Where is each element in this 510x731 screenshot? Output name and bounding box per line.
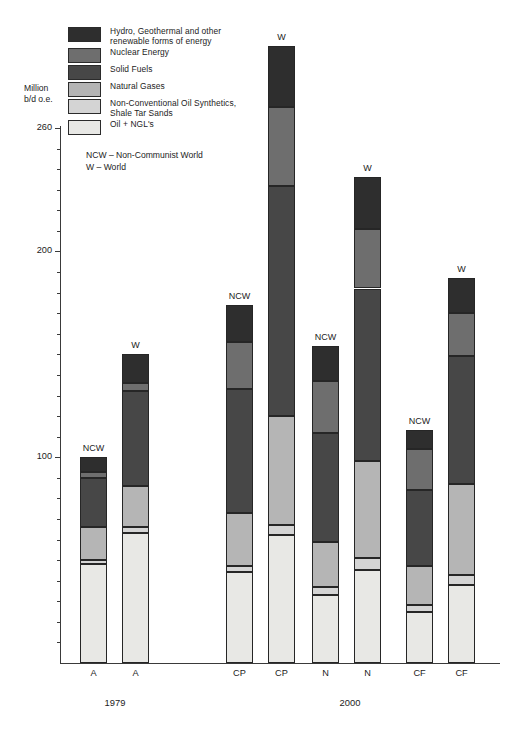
y-tick-10 (57, 642, 61, 643)
y-tick-250 (57, 149, 61, 150)
bar-2000-cf-ncw (406, 430, 433, 663)
bar-2000-n-ncw (312, 346, 339, 663)
bar-2000-cp-w-segment-non-conventional-oil (268, 107, 295, 185)
bar-2000-cf-w-x-label: CF (439, 668, 484, 678)
bar-2000-cf-ncw-segment-solid-fuels (406, 566, 433, 605)
bar-1979-ncw-segment-oil-ngl (80, 457, 107, 471)
y-tick-150 (57, 354, 61, 355)
y-tick-190 (57, 272, 61, 273)
legend-item-nuclear-energy: Nuclear Energy (68, 48, 278, 63)
bar-2000-n-w-segment-non-conventional-oil (354, 229, 381, 289)
bar-2000-cf-w-segment-nuclear-energy (448, 575, 475, 585)
bar-1979-ncw-cap-label: NCW (71, 443, 116, 453)
y-tick-120 (57, 416, 61, 417)
y-tick-220 (57, 210, 61, 211)
bar-2000-cp-w-segment-oil-ngl (268, 46, 295, 108)
bar-2000-cf-ncw-x-label: CF (397, 668, 442, 678)
bar-2000-n-w-x-label: N (345, 668, 390, 678)
legend-swatch-oil-ngl (68, 120, 101, 135)
bar-2000-n-w-segment-hydro-geothermal-renewables (354, 570, 381, 663)
legend-swatch-solid-fuels (68, 65, 101, 80)
bar-2000-cf-w-segment-natural-gases (448, 356, 475, 484)
y-tick-50 (57, 560, 61, 561)
bar-1979-ncw-segment-nuclear-energy (80, 560, 107, 564)
bar-2000-n-ncw-segment-hydro-geothermal-renewables (312, 595, 339, 663)
legend-swatch-natural-gases (68, 82, 101, 97)
bar-2000-n-w-segment-solid-fuels (354, 461, 381, 558)
bar-2000-n-w-cap-label: W (345, 163, 390, 173)
y-tick-30 (57, 601, 61, 602)
bar-2000-cf-ncw-segment-nuclear-energy (406, 605, 433, 611)
bar-2000-cf-ncw-segment-oil-ngl (406, 430, 433, 449)
y-tick-130 (57, 396, 61, 397)
bar-2000-n-ncw-segment-non-conventional-oil (312, 381, 339, 432)
bar-2000-cp-ncw-segment-natural-gases (226, 389, 253, 512)
bar-2000-cp-w-segment-nuclear-energy (268, 525, 295, 535)
bar-1979-ncw (80, 457, 107, 663)
bar-2000-cp-w-segment-hydro-geothermal-renewables (268, 535, 295, 663)
bar-2000-cp-ncw (226, 305, 253, 663)
bar-2000-cf-ncw-segment-natural-gases (406, 490, 433, 566)
bar-2000-n-ncw-segment-oil-ngl (312, 346, 339, 381)
bar-2000-n-ncw-cap-label: NCW (303, 332, 348, 342)
legend-label-nuclear-energy: Nuclear Energy (110, 48, 169, 58)
legend-item-oil-ngl: Oil + NGL's (68, 120, 278, 135)
bar-2000-n-ncw-segment-nuclear-energy (312, 587, 339, 595)
bar-2000-n-w-segment-natural-gases (354, 289, 381, 462)
bar-2000-cf-w-segment-non-conventional-oil (448, 313, 475, 356)
bar-2000-cp-w (268, 46, 295, 663)
bar-2000-cf-w-segment-hydro-geothermal-renewables (448, 585, 475, 663)
bar-1979-w-segment-natural-gases (122, 391, 149, 486)
y-axis-title: Million b/d o.e. (24, 83, 53, 104)
y-tick-200 (55, 251, 61, 252)
bar-2000-cf-w-cap-label: W (439, 264, 484, 274)
y-tick-160 (57, 334, 61, 335)
bar-2000-n-w-segment-nuclear-energy (354, 558, 381, 570)
bar-1979-w-x-label: A (113, 668, 158, 678)
y-tick-90 (57, 478, 61, 479)
y-tick-label-100: 100 (37, 451, 52, 461)
legend-item-natural-gases: Natural Gases (68, 82, 278, 97)
bar-1979-w-cap-label: W (113, 340, 158, 350)
bar-2000-n-ncw-x-label: N (303, 668, 348, 678)
y-tick-60 (57, 540, 61, 541)
bar-1979-w (122, 354, 149, 663)
legend-label-solid-fuels: Solid Fuels (110, 65, 153, 75)
legend-label-non-conventional-oil: Non-Conventional Oil Synthetics, Shale T… (110, 99, 236, 118)
chart-canvas: Hydro, Geothermal and other renewable fo… (0, 0, 510, 731)
bar-2000-n-ncw-segment-solid-fuels (312, 542, 339, 587)
bar-2000-cf-ncw-segment-non-conventional-oil (406, 449, 433, 490)
bar-2000-n-w (354, 177, 381, 663)
bar-2000-cp-ncw-x-label: CP (217, 668, 262, 678)
bar-2000-n-w-segment-oil-ngl (354, 177, 381, 228)
legend-label-natural-gases: Natural Gases (110, 82, 165, 92)
legend-label-oil-ngl: Oil + NGL's (110, 120, 154, 130)
y-tick-20 (57, 622, 61, 623)
bar-2000-cp-ncw-segment-non-conventional-oil (226, 342, 253, 389)
bar-1979-w-segment-oil-ngl (122, 354, 149, 383)
bar-1979-ncw-segment-natural-gases (80, 478, 107, 527)
bar-2000-cf-w-segment-solid-fuels (448, 484, 475, 575)
bar-2000-cp-ncw-segment-oil-ngl (226, 305, 253, 342)
y-tick-70 (57, 519, 61, 520)
bar-1979-ncw-segment-solid-fuels (80, 527, 107, 560)
bar-2000-cf-w-segment-oil-ngl (448, 278, 475, 313)
legend-item-hydro-geothermal-renewables: Hydro, Geothermal and other renewable fo… (68, 27, 278, 46)
chart-legend: Hydro, Geothermal and other renewable fo… (68, 27, 278, 137)
y-tick-label-260: 260 (37, 122, 52, 132)
legend-label-hydro-geothermal-renewables: Hydro, Geothermal and other renewable fo… (110, 27, 221, 46)
y-tick-label-200: 200 (37, 245, 52, 255)
y-tick-110 (57, 437, 61, 438)
y-tick-140 (57, 375, 61, 376)
bar-1979-w-segment-non-conventional-oil (122, 383, 149, 391)
legend-swatch-nuclear-energy (68, 48, 101, 63)
bar-2000-cf-ncw-cap-label: NCW (397, 416, 442, 426)
bar-2000-cp-w-segment-solid-fuels (268, 416, 295, 525)
bar-2000-cp-ncw-segment-hydro-geothermal-renewables (226, 572, 253, 663)
legend-item-solid-fuels: Solid Fuels (68, 65, 278, 80)
chart-notes: NCW – Non-Communist World W – World (86, 150, 203, 173)
y-tick-260 (55, 128, 61, 129)
bar-1979-ncw-segment-hydro-geothermal-renewables (80, 564, 107, 663)
y-tick-170 (57, 313, 61, 314)
y-tick-230 (57, 190, 61, 191)
